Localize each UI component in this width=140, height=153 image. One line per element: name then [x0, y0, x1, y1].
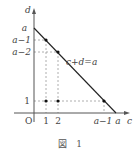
x-tick-1: 1 — [43, 116, 49, 126]
x-tick-a: a — [115, 116, 120, 126]
point — [56, 50, 59, 53]
line-equation-label: c+d=a — [66, 57, 97, 67]
point — [102, 99, 105, 102]
y-tick-a-minus-1: a−1 — [12, 35, 31, 45]
y-tick-a-minus-2: a−2 — [12, 47, 31, 57]
point — [44, 38, 47, 41]
x-tick-a-minus-1: a−1 — [94, 116, 113, 126]
dashed-guides — [34, 40, 104, 113]
origin-label: O — [25, 116, 32, 126]
y-tick-1: 1 — [24, 96, 30, 106]
y-tick-a: a — [22, 23, 27, 33]
x-tick-2: 2 — [55, 116, 61, 126]
y-axis-label: d — [25, 5, 31, 15]
point — [44, 99, 47, 102]
y-axis-arrow-icon — [32, 8, 36, 14]
coordinate-diagram: d c O a a−1 a−2 1 1 2 a−1 a c+d=a 図 1 — [0, 0, 140, 153]
x-axis-arrow-icon — [124, 111, 130, 115]
point — [56, 99, 59, 102]
figure-caption: 図 1 — [58, 139, 82, 149]
x-axis-label: c — [127, 116, 132, 126]
